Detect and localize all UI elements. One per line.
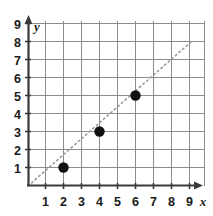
data-point <box>94 126 104 136</box>
x-tick-label: 3 <box>78 195 85 209</box>
y-tick-labels: 1 2 3 4 5 6 7 8 9 <box>14 18 21 176</box>
coordinate-plot: 1 2 3 4 5 6 7 8 9 1 2 3 4 5 6 7 8 9 y x <box>0 0 213 216</box>
x-tick-label: 7 <box>150 195 157 209</box>
x-axis-label: x <box>199 194 207 209</box>
y-tick-label: 1 <box>14 162 21 176</box>
plot-background <box>0 0 213 216</box>
y-tick-label: 9 <box>14 18 21 32</box>
y-tick-label: 4 <box>14 108 21 122</box>
x-tick-label: 9 <box>186 195 193 209</box>
y-tick-label: 2 <box>14 144 21 158</box>
x-tick-label: 4 <box>96 195 103 209</box>
x-tick-labels: 1 2 3 4 5 6 7 8 9 <box>42 195 193 209</box>
y-axis-label: y <box>32 19 40 34</box>
y-tick-label: 8 <box>14 36 21 50</box>
x-tick-label: 6 <box>132 195 139 209</box>
data-point <box>130 90 140 100</box>
x-tick-label: 5 <box>114 195 121 209</box>
data-point <box>58 162 68 172</box>
y-tick-label: 5 <box>14 90 21 104</box>
y-tick-label: 7 <box>14 54 21 68</box>
x-tick-label: 8 <box>168 195 175 209</box>
y-tick-label: 6 <box>14 72 21 86</box>
y-tick-label: 3 <box>14 126 21 140</box>
x-tick-label: 1 <box>42 195 49 209</box>
x-tick-label: 2 <box>60 195 67 209</box>
plot-svg: 1 2 3 4 5 6 7 8 9 1 2 3 4 5 6 7 8 9 y x <box>0 0 213 216</box>
